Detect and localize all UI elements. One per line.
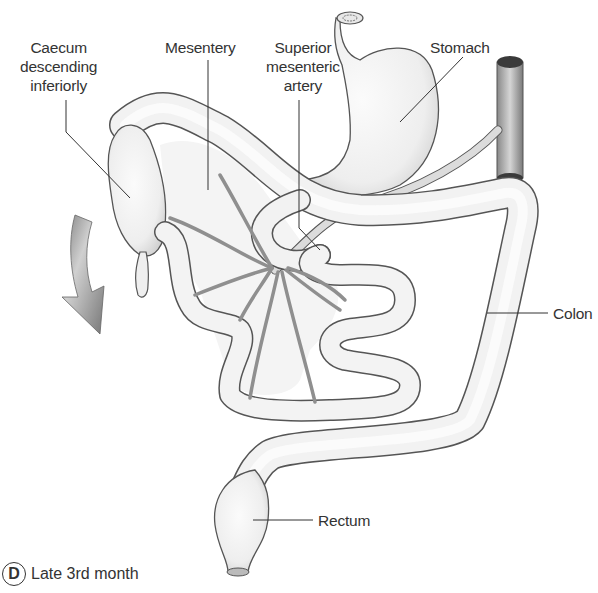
appendix: [136, 252, 149, 297]
label-caecum-line3: inferiorly: [20, 76, 97, 95]
caption-text: Late 3rd month: [31, 565, 139, 583]
label-caecum-line1: Caecum: [20, 38, 97, 57]
figure-caption: D Late 3rd month: [2, 562, 139, 586]
label-superior-mesenteric-artery: Superior mesenteric artery: [266, 38, 340, 95]
aorta: [497, 56, 523, 183]
panel-letter-badge: D: [2, 562, 26, 586]
rotation-arrow-icon: [62, 215, 104, 334]
label-caecum: Caecum descending inferiorly: [20, 38, 97, 95]
label-sma-line2: mesenteric: [266, 57, 340, 76]
label-sma-line1: Superior: [266, 38, 340, 57]
label-rectum: Rectum: [318, 511, 370, 530]
rectum: [215, 470, 269, 576]
label-caecum-line2: descending: [20, 57, 97, 76]
label-colon: Colon: [553, 304, 593, 323]
label-sma-line3: artery: [266, 76, 340, 95]
caecum: [108, 125, 165, 297]
label-stomach: Stomach: [430, 38, 490, 57]
label-mesentery: Mesentery: [165, 38, 236, 57]
